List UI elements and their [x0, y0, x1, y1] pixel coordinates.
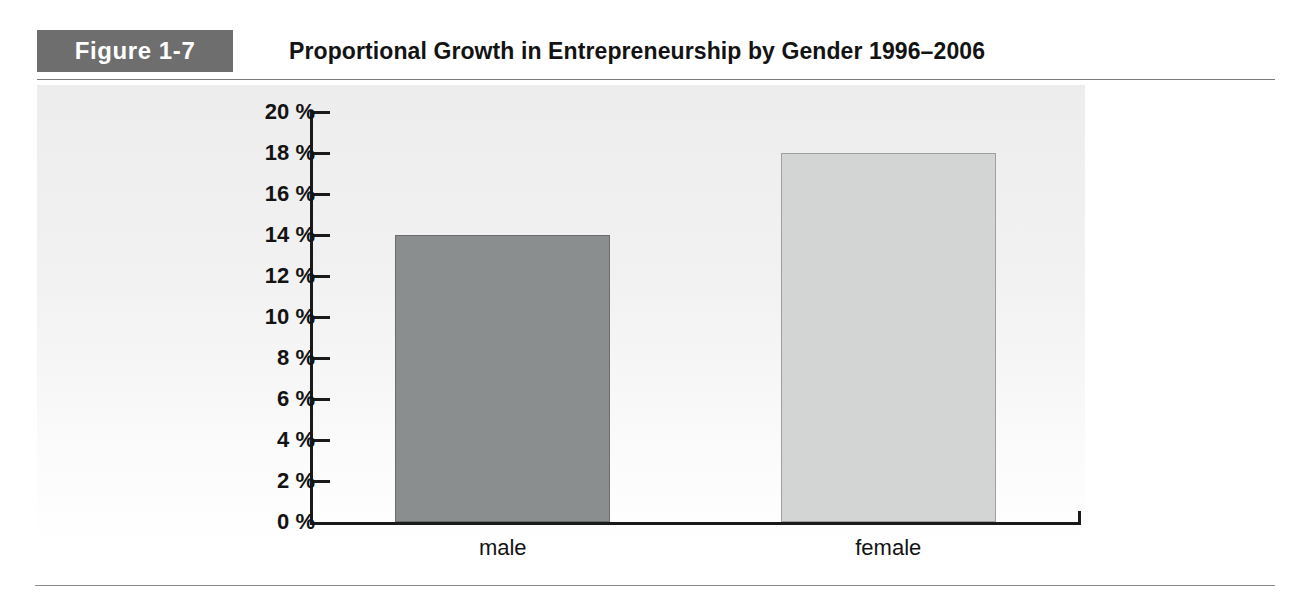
y-axis-tick-label: 14 %	[115, 224, 315, 246]
y-axis-tick-label: 18 %	[115, 142, 315, 164]
chart-canvas: 20 %18 %16 %14 %12 %10 %8 %6 %4 %2 %0 %m…	[37, 85, 1085, 547]
bar-female	[781, 153, 996, 522]
header-divider-rule	[37, 79, 1275, 80]
figure-title: Proportional Growth in Entrepreneurship …	[289, 30, 985, 72]
x-axis-category-label-female: female	[768, 537, 1008, 559]
y-axis-tick	[313, 234, 330, 237]
y-axis-tick-label: 0 %	[115, 511, 315, 533]
y-axis-tick-label: 2 %	[115, 470, 315, 492]
x-axis-end-tick	[1078, 511, 1081, 525]
y-axis-tick-label: 4 %	[115, 429, 315, 451]
x-axis-line	[310, 522, 1081, 525]
y-axis-tick-label: 8 %	[115, 347, 315, 369]
plot-area: 20 %18 %16 %14 %12 %10 %8 %6 %4 %2 %0 %m…	[37, 85, 1085, 547]
figure-header: Figure 1-7 Proportional Growth in Entrep…	[37, 30, 1275, 72]
y-axis-tick	[313, 480, 330, 483]
y-axis-tick	[313, 111, 330, 114]
y-axis-tick	[313, 357, 330, 360]
y-axis-tick-label: 10 %	[115, 306, 315, 328]
y-axis-tick	[313, 275, 330, 278]
y-axis-tick-label: 6 %	[115, 388, 315, 410]
y-axis-tick	[313, 398, 330, 401]
x-axis-category-label-male: male	[383, 537, 623, 559]
y-axis-tick	[313, 152, 330, 155]
y-axis-tick-label: 16 %	[115, 183, 315, 205]
y-axis-tick-label: 12 %	[115, 265, 315, 287]
y-axis-tick-label: 20 %	[115, 101, 315, 123]
footer-divider-rule	[35, 585, 1275, 586]
figure-number-label: Figure 1-7	[75, 39, 196, 63]
y-axis-tick	[313, 316, 330, 319]
figure-1-7: Figure 1-7 Proportional Growth in Entrep…	[0, 0, 1307, 597]
figure-number-badge: Figure 1-7	[37, 30, 233, 72]
y-axis-tick	[313, 439, 330, 442]
bar-male	[395, 235, 610, 522]
y-axis-tick	[313, 193, 330, 196]
